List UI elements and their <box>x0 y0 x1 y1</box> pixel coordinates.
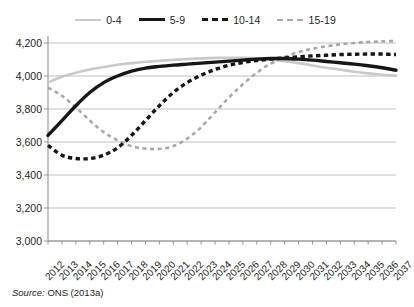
legend-swatch-10-14-icon <box>202 14 228 26</box>
legend-swatch-0-4-icon <box>75 14 101 26</box>
plot-area <box>0 30 411 255</box>
plot-svg <box>0 30 411 255</box>
gridlines <box>44 43 396 241</box>
legend-label-5-9: 5-9 <box>170 14 185 26</box>
legend-label-10-14: 10-14 <box>233 14 260 26</box>
legend-item-5-9[interactable]: 5-9 <box>139 11 185 29</box>
legend-item-10-14[interactable]: 10-14 <box>202 11 260 29</box>
chart-legend: 0-4 5-9 10-14 15-19 <box>0 10 411 30</box>
legend-item-15-19[interactable]: 15-19 <box>277 11 335 29</box>
legend-swatch-5-9-icon <box>139 14 165 26</box>
source-note: Source: ONS (2013a) <box>12 287 103 298</box>
source-lead: Source: <box>12 287 45 298</box>
source-text: ONS (2013a) <box>45 287 104 298</box>
legend-swatch-15-19-icon <box>277 14 303 26</box>
legend-label-0-4: 0-4 <box>106 14 121 26</box>
x-axis-labels: 2012201320142015201620172018201920202021… <box>0 243 411 283</box>
legend-label-15-19: 15-19 <box>308 14 335 26</box>
legend-item-0-4[interactable]: 0-4 <box>75 11 121 29</box>
data-series-group <box>48 41 396 159</box>
